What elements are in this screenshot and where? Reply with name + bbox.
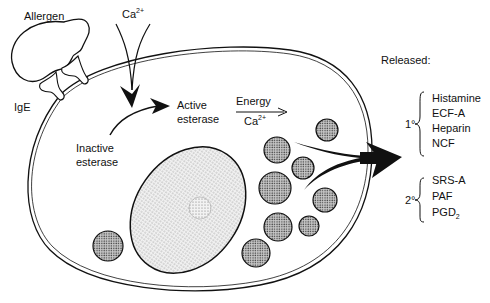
granule <box>316 119 338 141</box>
allergen-ige-complex <box>12 19 90 100</box>
released-header: Released: <box>381 54 431 66</box>
granule <box>93 231 123 261</box>
mediator-srs-a: SRS-A <box>432 174 466 186</box>
granule <box>299 216 319 236</box>
brace-primary <box>415 92 424 156</box>
primary-label: 1° <box>405 118 416 130</box>
granule <box>259 172 291 204</box>
granule <box>264 137 290 163</box>
ige-label: IgE <box>14 101 31 113</box>
active-esterase-label-2: esterase <box>177 113 219 125</box>
active-esterase-label-1: Active <box>177 99 207 111</box>
mediator-pgd2: PGD2 <box>432 206 460 220</box>
granule <box>264 213 292 241</box>
esterase-activation-arrow <box>110 98 170 135</box>
secondary-label: 2° <box>405 194 416 206</box>
calcium-cofactor-label: Ca2+ <box>244 114 266 127</box>
nucleus <box>106 124 269 295</box>
granule <box>242 239 270 267</box>
mediator-ncf: NCF <box>432 137 455 149</box>
inactive-esterase-label-2: esterase <box>76 156 118 168</box>
calcium-entry-label: Ca2+ <box>122 7 144 20</box>
granule <box>313 188 337 212</box>
mediator-heparin: Heparin <box>432 122 471 134</box>
mediator-ecf-a: ECF-A <box>432 107 466 119</box>
calcium-entry-arrow <box>116 24 150 108</box>
energy-label: Energy <box>236 95 271 107</box>
allergen-label: Allergen <box>24 10 64 22</box>
granule <box>292 157 314 179</box>
mediator-paf: PAF <box>432 190 453 202</box>
brace-secondary <box>415 178 424 222</box>
mediator-histamine: Histamine <box>432 92 481 104</box>
mast-cell-diagram: Allergen IgE Ca2+ Inactive esterase Acti… <box>0 0 490 303</box>
inactive-esterase-label-1: Inactive <box>76 142 114 154</box>
